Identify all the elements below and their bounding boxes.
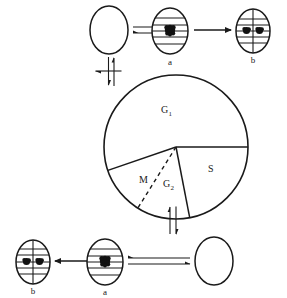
top-cell-a: a <box>150 8 190 67</box>
pie-label-g2-text: G <box>163 178 170 189</box>
pie-radius-s-g2 <box>176 147 190 218</box>
pie-label-m: M <box>139 174 148 185</box>
pie-radius-m-g1 <box>108 147 176 170</box>
top-cell-a-label: a <box>168 57 172 67</box>
pie-label-g2: G 2 <box>163 178 175 192</box>
pie-label-g1-text: G <box>161 104 168 115</box>
cytoplasm-striations <box>14 239 52 285</box>
pie-label-g2-subscript: 2 <box>171 184 175 192</box>
bottom-cell-b-label: b <box>31 286 36 296</box>
bottom-interphase-cell <box>195 237 233 285</box>
top-cell-b: b <box>234 8 272 65</box>
nucleus-icon <box>164 25 175 37</box>
equilibrium-arrowhead-down <box>109 80 112 86</box>
top-vertical-equilibrium <box>96 57 122 86</box>
pie-label-s: S <box>208 163 214 174</box>
bottom-cell-a-label: a <box>103 287 107 297</box>
equilibrium-arrowhead-up <box>112 57 114 63</box>
plain-oval-cell-icon <box>195 237 233 285</box>
top-interphase-cell <box>90 6 128 54</box>
bottom-vertical-equilibrium <box>168 207 179 236</box>
cell-cycle-pie-chart: G 1 S G 2 M <box>104 75 248 219</box>
equilibrium-arrowhead-down <box>176 229 179 235</box>
nucleus-icon <box>99 256 110 268</box>
bottom-cell-a: a <box>85 239 125 297</box>
bottom-equilibrium-arrows <box>128 258 190 264</box>
top-cell-b-label: b <box>251 55 256 65</box>
cytoplasm-striations <box>234 8 272 54</box>
plain-oval-cell-icon <box>90 6 128 54</box>
cell-cycle-figure: a <box>0 0 287 298</box>
pie-label-g1-subscript: 1 <box>169 110 173 118</box>
cell-cycle-diagram-canvas: a <box>0 0 287 298</box>
pie-label-g1: G 1 <box>161 104 173 118</box>
bottom-cell-b: b <box>14 239 52 296</box>
